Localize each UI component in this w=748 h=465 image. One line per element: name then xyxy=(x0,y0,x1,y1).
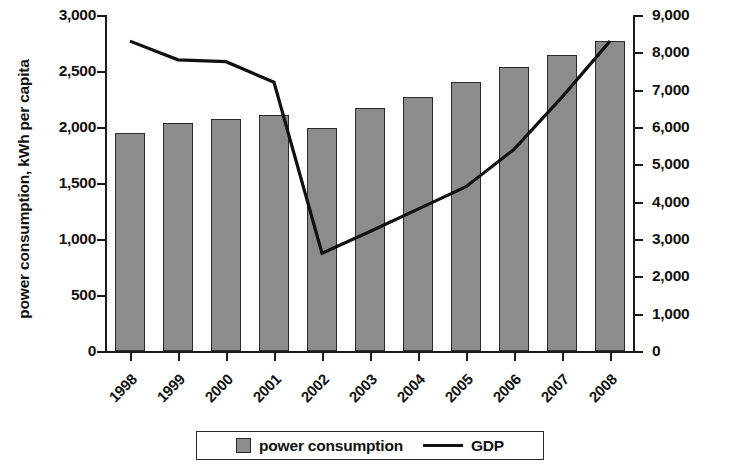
y-axis-right-tick-label: 0 xyxy=(652,343,660,359)
y-axis-left-tick-label: 1,500 xyxy=(12,175,96,191)
legend-line-icon xyxy=(423,444,463,447)
x-axis-labels: 1998199920002001200220032004200520062007… xyxy=(106,352,634,412)
y-axis-right-tick-mark xyxy=(635,314,643,316)
x-axis-tick-label: 1999 xyxy=(134,370,188,424)
y-axis-right-tick-label: 1,000 xyxy=(652,306,689,322)
x-axis-tick-label: 2005 xyxy=(422,370,476,424)
y-axis-right-tick-mark xyxy=(635,90,643,92)
y-axis-right-tick-mark xyxy=(635,127,643,129)
y-axis-right-tick-label: 7,000 xyxy=(652,82,689,98)
y-axis-left-tick-label: 0 xyxy=(12,343,96,359)
legend-label-gdp: GDP xyxy=(471,437,504,455)
legend-item-power-consumption: power consumption xyxy=(236,437,403,455)
chart-legend: power consumption GDP xyxy=(196,431,544,460)
x-axis-tick-label: 2003 xyxy=(326,370,380,424)
y-axis-left-tick-label: 2,500 xyxy=(12,63,96,79)
x-axis-tick-label: 2001 xyxy=(230,370,284,424)
x-axis-tick-label: 2004 xyxy=(374,370,428,424)
y-axis-right-tick-mark xyxy=(635,276,643,278)
y-axis-right-tick-label: 4,000 xyxy=(652,194,689,210)
y-axis-left-tick-mark xyxy=(97,127,105,129)
x-axis-tick-label: 2006 xyxy=(470,370,524,424)
y-axis-right-tick-label: 5,000 xyxy=(652,156,689,172)
x-axis-tick-label: 2007 xyxy=(518,370,572,424)
x-axis-tick-label: 2000 xyxy=(182,370,236,424)
y-axis-left-ticks: 05001,0001,5002,0002,5003,000 xyxy=(0,0,96,465)
y-axis-right-tick-mark xyxy=(635,202,643,204)
y-axis-left-tick-label: 2,000 xyxy=(12,119,96,135)
y-axis-right-tick-mark xyxy=(635,164,643,166)
y-axis-left-tick-mark xyxy=(97,71,105,73)
y-axis-left-tick-mark xyxy=(97,183,105,185)
y-axis-right-tick-mark xyxy=(635,52,643,54)
legend-label-power-consumption: power consumption xyxy=(259,437,403,455)
y-axis-right-tick-mark xyxy=(635,15,643,17)
y-axis-left-tick-label: 500 xyxy=(12,287,96,303)
y-axis-left-tick-mark xyxy=(97,351,105,353)
y-axis-right-tick-label: 6,000 xyxy=(652,119,689,135)
line-series-gdp xyxy=(106,15,634,352)
y-axis-right-tick-mark xyxy=(635,351,643,353)
legend-swatch-icon xyxy=(236,438,251,453)
legend-item-gdp: GDP xyxy=(423,437,504,455)
y-axis-left-tick-label: 1,000 xyxy=(12,231,96,247)
x-axis-tick-label: 2008 xyxy=(566,370,620,424)
y-axis-left-tick-mark xyxy=(97,239,105,241)
plot-area xyxy=(106,15,634,352)
y-axis-left-tick-mark xyxy=(97,15,105,17)
y-axis-right-tick-label: 3,000 xyxy=(652,231,689,247)
chart-figure: power consumption, kWh per capita GDP, U… xyxy=(0,0,748,465)
y-axis-left-tick-mark xyxy=(97,295,105,297)
y-axis-right-tick-label: 2,000 xyxy=(652,268,689,284)
y-axis-right-tick-label: 8,000 xyxy=(652,44,689,60)
y-axis-left-tick-label: 3,000 xyxy=(12,7,96,23)
x-axis-tick-label: 2002 xyxy=(278,370,332,424)
y-axis-right-tick-label: 9,000 xyxy=(652,7,689,23)
y-axis-right-tick-mark xyxy=(635,239,643,241)
y-axis-right-ticks: 01,0002,0003,0004,0005,0006,0007,0008,00… xyxy=(652,0,742,465)
